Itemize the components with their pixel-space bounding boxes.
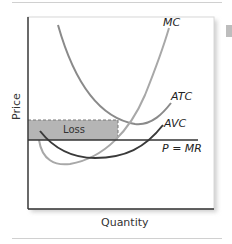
plot-area [28, 17, 214, 209]
price-mr-label: P = MR [162, 142, 202, 155]
atc-label: ATC [171, 90, 192, 103]
cost-curves-chart [0, 0, 232, 244]
x-axis-label: Quantity [101, 216, 149, 229]
avc-label: AVC [164, 117, 186, 130]
y-axis-label: Price [10, 93, 23, 120]
bottom-divider [12, 238, 222, 239]
mc-label: MC [163, 16, 180, 29]
loss-label: Loss [63, 124, 85, 135]
